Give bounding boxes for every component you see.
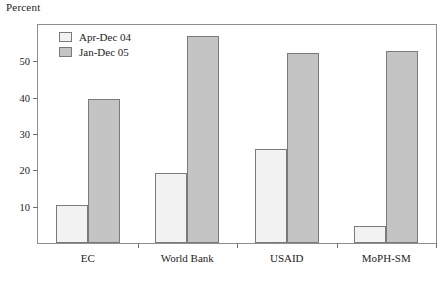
x-axis-category-label: MoPH-SM <box>362 252 411 265</box>
y-axis-tick <box>33 134 38 135</box>
legend-item: Apr-Dec 04 <box>59 30 131 44</box>
bar <box>386 51 418 243</box>
y-axis-tick-label: 30 <box>20 129 31 140</box>
x-axis-tick <box>138 243 139 248</box>
y-axis-tick-label: 20 <box>20 165 31 176</box>
x-axis-category-label: World Bank <box>161 252 214 265</box>
bar <box>56 205 88 243</box>
y-axis-tick-label: 50 <box>20 56 31 67</box>
bar <box>287 53 319 243</box>
x-axis-tick <box>337 243 338 248</box>
bar <box>155 173 187 243</box>
y-axis-tick <box>33 98 38 99</box>
legend-item-label: Jan-Dec 05 <box>79 46 129 59</box>
x-axis-tick <box>436 243 437 248</box>
x-axis-category-label: EC <box>81 252 95 265</box>
y-axis-tick <box>33 170 38 171</box>
y-axis-tick-label: 40 <box>20 92 31 103</box>
legend-item-label: Apr-Dec 04 <box>79 31 131 44</box>
y-axis-tick <box>33 61 38 62</box>
light-swatch <box>59 32 72 42</box>
bar <box>255 149 287 243</box>
y-axis-tick-label: 10 <box>20 201 31 212</box>
y-axis-caption: Percent <box>6 1 40 14</box>
chart-legend: Apr-Dec 04Jan-Dec 05 <box>59 30 131 60</box>
legend-item: Jan-Dec 05 <box>59 45 131 59</box>
x-axis-category-label: USAID <box>270 252 304 265</box>
bar <box>354 226 386 243</box>
y-axis-tick <box>33 207 38 208</box>
plot-area: 1020304050 ECWorld BankUSAIDMoPH-SM Apr-… <box>38 25 436 243</box>
bar <box>187 36 219 243</box>
plot-frame: 1020304050 ECWorld BankUSAIDMoPH-SM Apr-… <box>37 24 437 244</box>
bar <box>88 99 120 243</box>
gray-swatch <box>59 47 72 57</box>
x-axis-tick <box>237 243 238 248</box>
